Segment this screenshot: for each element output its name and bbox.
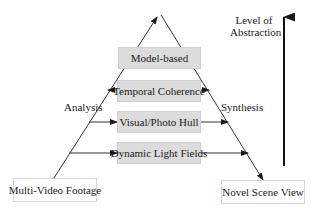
stage-model-based: Model-based (118, 47, 201, 69)
stage-label: Visual/Photo Hull (119, 116, 198, 128)
input-box: Multi-Video Footage (13, 178, 97, 202)
input-label: Multi-Video Footage (9, 184, 102, 196)
output-label: Novel Scene View (222, 186, 304, 198)
analysis-label: Analysis (64, 101, 103, 113)
stage-dynamic-light-fields: Dynamic Light Fields (117, 142, 201, 164)
abstraction-label-line2: Abstraction (230, 26, 278, 38)
stage-label: Model-based (131, 52, 188, 64)
abstraction-axis-label: Level of Abstraction (230, 14, 278, 38)
abstraction-label-line1: Level of (230, 14, 278, 26)
stage-label: Dynamic Light Fields (111, 147, 208, 159)
stage-temporal-coherence: Temporal Coherence (117, 80, 201, 102)
synthesis-label: Synthesis (221, 101, 263, 113)
stage-label: Temporal Coherence (113, 85, 205, 97)
stage-visual-photo-hull: Visual/Photo Hull (117, 111, 201, 133)
output-box: Novel Scene View (221, 180, 305, 204)
